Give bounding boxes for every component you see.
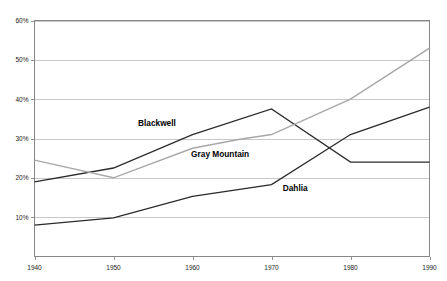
y-tick-label-60: 60% (15, 17, 28, 24)
y-tick-label-10: 10% (15, 214, 28, 221)
x-tick-label-1950: 1950 (106, 264, 121, 271)
y-tick-label-50: 50% (15, 56, 28, 63)
series-label-dahlia: Dahlia (283, 183, 308, 193)
chart-background (0, 0, 447, 281)
series-label-gray-mountain: Gray Mountain (191, 149, 249, 159)
line-chart-figure: 10%20%30%40%50%60% 194019501960197019801… (0, 0, 447, 281)
series-label-blackwell: Blackwell (138, 118, 176, 128)
x-tick-label-1980: 1980 (343, 264, 358, 271)
y-tick-label-20: 20% (15, 174, 28, 181)
chart-canvas: 10%20%30%40%50%60% 194019501960197019801… (0, 0, 447, 281)
x-tick-label-1970: 1970 (264, 264, 279, 271)
x-tick-label-1940: 1940 (27, 264, 42, 271)
y-tick-label-30: 30% (15, 135, 28, 142)
y-tick-label-40: 40% (15, 96, 28, 103)
x-tick-label-1960: 1960 (185, 264, 200, 271)
x-tick-label-1990: 1990 (422, 264, 437, 271)
